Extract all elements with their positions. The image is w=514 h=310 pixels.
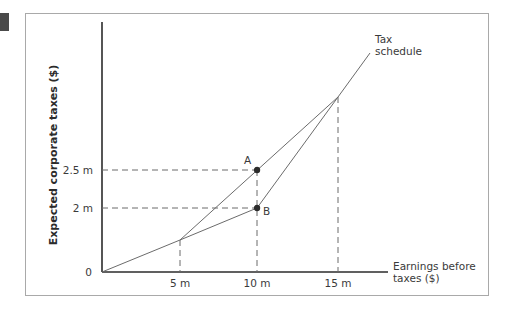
x-axis-label-line1: Earnings before bbox=[393, 260, 476, 272]
tax-schedule-label-line1: Tax bbox=[374, 33, 392, 45]
y-tick-2-5m: 2.5 m bbox=[63, 164, 93, 176]
y-axis-label: Expected corporate taxes ($) bbox=[47, 65, 60, 246]
x-tick-15m: 15 m bbox=[325, 277, 352, 289]
point-b-marker bbox=[254, 205, 260, 211]
x-axis-label-line2: taxes ($) bbox=[393, 272, 440, 284]
y-tick-2m: 2 m bbox=[73, 202, 93, 214]
point-b-label: B bbox=[263, 205, 270, 217]
chart-svg: A B 0 2 m 2.5 m 5 m 10 m 15 m Earnings b… bbox=[0, 0, 514, 310]
point-a-label: A bbox=[244, 154, 252, 166]
x-tick-5m: 5 m bbox=[170, 277, 190, 289]
x-tick-10m: 10 m bbox=[244, 277, 271, 289]
tax-schedule-line bbox=[102, 53, 370, 272]
tax-schedule-label-line2: schedule bbox=[375, 45, 422, 57]
y-tick-0: 0 bbox=[85, 266, 92, 278]
point-a-marker bbox=[254, 167, 260, 173]
